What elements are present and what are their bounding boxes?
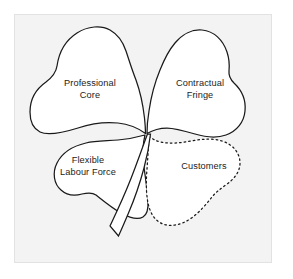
leaf-label-professional-core: Professional Core — [42, 78, 138, 101]
leaf-label-line-1: Customers — [181, 161, 226, 171]
shamrock-diagram — [0, 0, 293, 279]
leaf-label-line-2: Labour Force — [60, 167, 116, 177]
leaf-label-line-1: Professional — [64, 78, 116, 88]
leaf-label-flexible-labour-force: Flexible Labour Force — [38, 155, 138, 178]
figure-root: Professional Core Contractual Fringe Fle… — [0, 0, 293, 279]
leaf-label-contractual-fringe: Contractual Fringe — [152, 78, 248, 101]
leaf-label-line-1: Contractual — [176, 78, 224, 88]
leaf-label-customers: Customers — [158, 161, 250, 173]
leaf-label-line-2: Core — [80, 90, 100, 100]
leaf-label-line-1: Flexible — [72, 155, 104, 165]
leaf-shape-customers[interactable] — [146, 136, 240, 225]
leaf-label-line-2: Fringe — [187, 90, 214, 100]
